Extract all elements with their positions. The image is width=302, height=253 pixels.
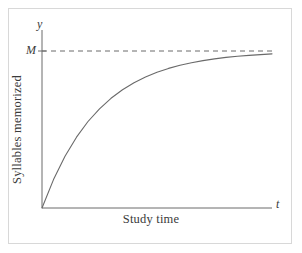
asymptote-label-m: M — [26, 44, 36, 56]
y-axis-title: Syllables memorized — [10, 75, 25, 185]
y-axis-symbol: y — [37, 18, 42, 30]
figure-container: y t M Study time Syllables memorized — [0, 0, 302, 253]
learning-curve — [42, 54, 272, 208]
x-axis-symbol: t — [276, 198, 279, 210]
x-axis-title: Study time — [0, 212, 302, 227]
